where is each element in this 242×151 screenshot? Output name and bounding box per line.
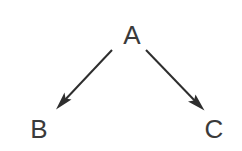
diagram-canvas: A B C — [0, 0, 242, 151]
node-label-a: A — [123, 20, 141, 50]
edge-a-to-c-line — [146, 50, 197, 103]
diagram-svg: A B C — [0, 0, 242, 151]
edge-a-to-b — [56, 50, 112, 110]
edge-a-to-b-line — [63, 50, 112, 102]
node-label-c: C — [205, 114, 224, 144]
node-label-b: B — [30, 114, 47, 144]
edge-a-to-c — [146, 50, 205, 111]
